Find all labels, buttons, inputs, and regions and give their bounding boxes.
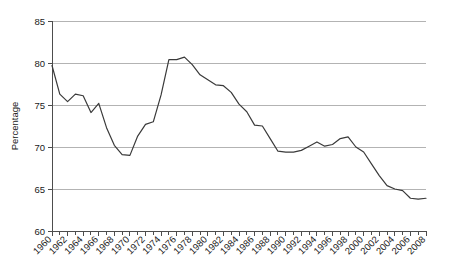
y-tick-label: 80 xyxy=(34,58,45,69)
x-tick-labels-group: 1960196219641966196819701972197419761978… xyxy=(31,234,428,257)
data-series-line xyxy=(52,57,426,199)
y-tick-label: 75 xyxy=(34,100,45,111)
line-chart: 606570758085 196019621964196619681970197… xyxy=(0,0,450,270)
y-tick-labels-group: 606570758085 xyxy=(34,16,45,237)
y-tick-label: 70 xyxy=(34,142,45,153)
y-axis-title: Percentage xyxy=(9,102,20,151)
x-tick-label: 2008 xyxy=(405,234,428,257)
chart-container: 606570758085 196019621964196619681970197… xyxy=(0,0,450,270)
y-tick-label: 85 xyxy=(34,16,45,27)
y-tick-label: 65 xyxy=(34,184,45,195)
y-tick-marks-group xyxy=(48,21,52,231)
gridlines-group xyxy=(52,21,426,189)
